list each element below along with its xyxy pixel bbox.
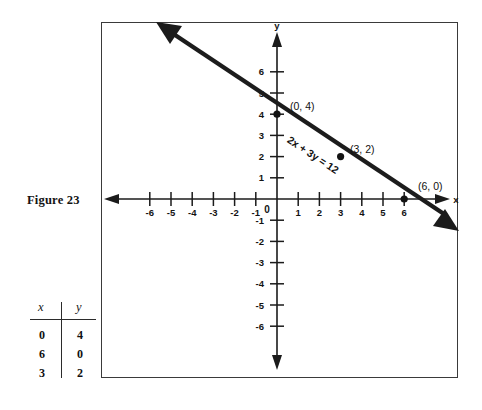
coordinate-graph: -6 -5 -4 -3 -2 -1 1 2 3 4 5 6 6 5 4 3 2 … xyxy=(0,0,482,410)
x-tick-label--3: -3 xyxy=(209,207,217,218)
y-tick-label-1: 1 xyxy=(259,172,265,183)
x-tick-label-3: 3 xyxy=(338,207,343,218)
line-upper-left-arrowhead xyxy=(156,22,182,44)
point-label-3-2: (3, 2) xyxy=(350,143,375,155)
y-tick-label--1: -1 xyxy=(256,215,265,226)
x-tick-label-5: 5 xyxy=(380,207,386,218)
x-axis-positive-arrowhead xyxy=(435,194,450,204)
y-tick-label-2: 2 xyxy=(259,151,264,162)
y-tick-label--6: -6 xyxy=(256,321,264,332)
y-tick-label--5: -5 xyxy=(256,300,265,311)
x-tick-label-1: 1 xyxy=(296,207,302,218)
point-marker-0-4 xyxy=(273,111,280,118)
figure-page: Figure 23 x y 0 4 6 0 3 2 xyxy=(0,0,482,410)
y-tick-label-4: 4 xyxy=(259,109,265,120)
y-tick-label--2: -2 xyxy=(256,236,264,247)
y-axis-negative-arrowhead xyxy=(272,355,282,370)
x-axis-negative-arrowhead xyxy=(104,194,119,204)
point-label-0-4: (0, 4) xyxy=(290,100,315,112)
y-tick-label-6: 6 xyxy=(259,66,264,77)
point-marker-3-2 xyxy=(337,153,344,160)
x-tick-label--5: -5 xyxy=(167,207,176,218)
y-axis-label: y xyxy=(274,20,280,31)
y-tick-label--4: -4 xyxy=(256,278,265,289)
point-marker-6-0 xyxy=(401,195,408,202)
y-tick-label--3: -3 xyxy=(256,257,264,268)
y-tick-label-3: 3 xyxy=(259,130,264,141)
x-tick-label-2: 2 xyxy=(317,207,322,218)
y-axis-positive-arrowhead xyxy=(272,32,282,47)
x-tick-label--6: -6 xyxy=(146,207,154,218)
line-lower-right-arrowhead xyxy=(433,209,459,231)
x-tick-label-4: 4 xyxy=(359,207,365,218)
x-tick-label--2: -2 xyxy=(230,207,238,218)
equation-line xyxy=(166,29,447,216)
point-label-6-0: (6, 0) xyxy=(418,180,443,192)
x-tick-label--4: -4 xyxy=(188,207,197,218)
origin-label: 0 xyxy=(264,204,270,215)
x-tick-label-6: 6 xyxy=(402,207,407,218)
x-axis-label: x xyxy=(453,194,459,205)
